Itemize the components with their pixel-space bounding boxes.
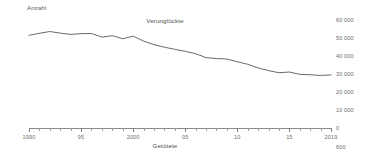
x-axis-tick (279, 128, 280, 131)
x-axis-tick-major (133, 128, 134, 132)
x-axis-label: 2019 (325, 134, 338, 140)
x-axis-tick-major (237, 128, 238, 132)
y-axis-unit-label: Anzahl (27, 4, 47, 11)
x-axis-label: 1990 (23, 134, 36, 140)
x-axis-tick-major (29, 128, 30, 132)
x-axis-tick (269, 128, 270, 131)
x-axis-tick (321, 128, 322, 131)
x-axis-tick (175, 128, 176, 131)
x-axis-line (29, 128, 331, 129)
y-axis-label: 0 (336, 125, 339, 131)
x-axis-tick (206, 128, 207, 131)
second-chart-y-top-tick: 600 (336, 144, 346, 150)
x-axis-tick-major (185, 128, 186, 132)
x-axis-tick (227, 128, 228, 131)
x-axis-label: 10 (234, 134, 240, 140)
x-axis-label: 05 (182, 134, 188, 140)
x-axis-tick (91, 128, 92, 131)
line-chart-svg (29, 20, 331, 128)
series-line-verungluckte (29, 32, 331, 76)
x-axis-tick (154, 128, 155, 131)
plot-area (29, 20, 331, 128)
x-axis-tick (216, 128, 217, 131)
y-axis-label: 20 000 (336, 89, 354, 95)
x-axis-tick (39, 128, 40, 131)
x-axis-tick (310, 128, 311, 131)
chart-page: Anzahl Verunglückte 19909520000510152019… (0, 0, 374, 158)
x-axis-tick-major (289, 128, 290, 132)
x-axis-tick-major (81, 128, 82, 132)
x-axis-tick (102, 128, 103, 131)
x-axis-label: 95 (78, 134, 84, 140)
y-axis-label: 50 000 (336, 35, 354, 41)
x-axis-tick (50, 128, 51, 131)
x-axis-tick-major (331, 128, 332, 132)
x-axis-tick (123, 128, 124, 131)
y-axis-label: 30 000 (336, 71, 354, 77)
x-axis-tick (112, 128, 113, 131)
x-axis-tick (258, 128, 259, 131)
x-axis-label: 15 (286, 134, 292, 140)
x-axis-tick (71, 128, 72, 131)
x-axis-tick (60, 128, 61, 131)
y-axis-label: 10 000 (336, 107, 354, 113)
x-axis-tick (196, 128, 197, 131)
chart-panel-getoetete: Getötete 600 (0, 142, 374, 158)
x-axis-tick (164, 128, 165, 131)
second-chart-title: Getötete (0, 142, 330, 149)
y-axis-label: 60 000 (336, 17, 354, 23)
x-axis-tick (248, 128, 249, 131)
y-axis-label: 40 000 (336, 53, 354, 59)
x-axis-tick (144, 128, 145, 131)
chart-panel-verungluckte: Verunglückte 19909520000510152019 60 000… (0, 14, 374, 142)
x-axis-label: 2000 (127, 134, 140, 140)
x-axis-tick (300, 128, 301, 131)
